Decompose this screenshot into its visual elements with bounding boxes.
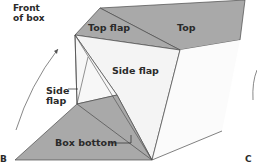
front-of-box-line1: Front xyxy=(13,3,45,13)
side-flap-label: Side flap xyxy=(112,66,159,76)
front-of-box-label: Front of box xyxy=(13,3,45,23)
corner-c-label: C xyxy=(245,154,252,164)
front-of-box-line2: of box xyxy=(13,13,45,23)
box-bottom-label: Box bottom xyxy=(55,138,117,148)
left-side-flap-label: Side flap xyxy=(46,86,69,106)
top-flap-label: Top flap xyxy=(88,23,130,33)
corner-b-label: B xyxy=(0,154,7,164)
left-side-flap-line2: flap xyxy=(46,96,69,106)
right-arc-icon xyxy=(253,70,257,100)
top-label: Top xyxy=(177,23,196,33)
